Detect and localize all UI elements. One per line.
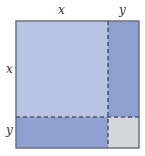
region-y-squared (108, 117, 139, 148)
square-diagram (0, 0, 145, 156)
region-x-squared (16, 21, 108, 117)
region-xy-bottom (16, 117, 108, 148)
region-xy-right (108, 21, 139, 117)
